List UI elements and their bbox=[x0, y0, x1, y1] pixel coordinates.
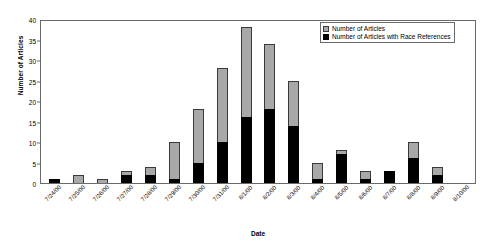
bar-column bbox=[425, 21, 449, 183]
y-tick-label: 35 bbox=[29, 37, 36, 44]
x-tick: 7/24/00 bbox=[42, 186, 66, 228]
y-tick-label: 5 bbox=[32, 160, 36, 167]
x-tick-label: 7/28/00 bbox=[140, 184, 158, 202]
legend-label: Number of Articles with Race References bbox=[332, 33, 451, 40]
bar-stack bbox=[97, 179, 108, 183]
x-tick-label: 7/25/00 bbox=[68, 184, 86, 202]
bar-stack bbox=[193, 109, 204, 183]
bar-stack bbox=[121, 171, 132, 183]
bar-column bbox=[43, 21, 67, 183]
x-tick-label: 8/7/00 bbox=[382, 185, 398, 201]
bar-segment-articles bbox=[97, 179, 108, 183]
bar-segment-race-references bbox=[336, 154, 347, 183]
bar-column bbox=[306, 21, 330, 183]
y-tick-label: 20 bbox=[29, 99, 36, 106]
bar-stack bbox=[288, 81, 299, 183]
bar-column bbox=[186, 21, 210, 183]
x-tick-label: 8/3/00 bbox=[286, 185, 302, 201]
y-axis-ticks: 0510152025303540 bbox=[0, 20, 40, 184]
bar-stack bbox=[145, 167, 156, 183]
x-tick: 8/8/00 bbox=[402, 186, 426, 228]
bar-stack bbox=[336, 150, 347, 183]
bar-segment-articles bbox=[217, 68, 228, 142]
bar-segment-race-references bbox=[169, 179, 180, 183]
y-tick-label: 40 bbox=[29, 17, 36, 24]
x-tick: 8/3/00 bbox=[282, 186, 306, 228]
articles-by-date-chart: Number of Articles 0510152025303540 7/24… bbox=[0, 0, 488, 246]
bar-segment-articles bbox=[145, 167, 156, 175]
bar-column bbox=[449, 21, 473, 183]
x-tick: 8/4/00 bbox=[306, 186, 330, 228]
bar-stack bbox=[217, 68, 228, 183]
x-tick: 8/10/00 bbox=[450, 186, 474, 228]
x-tick: 8/6/00 bbox=[354, 186, 378, 228]
y-tick-label: 25 bbox=[29, 78, 36, 85]
bar-column bbox=[282, 21, 306, 183]
bar-column bbox=[330, 21, 354, 183]
bar-segment-race-references bbox=[217, 142, 228, 183]
x-tick-label: 7/30/00 bbox=[188, 184, 206, 202]
bar-segment-articles bbox=[360, 171, 371, 179]
bar-segment-articles bbox=[432, 167, 443, 175]
bar-segment-articles bbox=[264, 44, 275, 110]
x-tick: 7/29/00 bbox=[162, 186, 186, 228]
bar-segment-articles bbox=[241, 27, 252, 117]
x-tick-label: 8/5/00 bbox=[334, 185, 350, 201]
bar-segment-race-references bbox=[145, 175, 156, 183]
legend-item: Number of Articles bbox=[323, 25, 451, 32]
bar-segment-race-references bbox=[408, 158, 419, 183]
x-tick: 8/9/00 bbox=[426, 186, 450, 228]
bar-column bbox=[162, 21, 186, 183]
x-tick-label: 7/26/00 bbox=[92, 184, 110, 202]
bar-segment-race-references bbox=[241, 117, 252, 183]
x-tick-label: 8/4/00 bbox=[310, 185, 326, 201]
plot-area bbox=[40, 20, 476, 184]
bar-stack bbox=[169, 142, 180, 183]
y-tick-label: 15 bbox=[29, 119, 36, 126]
legend-item: Number of Articles with Race References bbox=[323, 33, 451, 40]
x-tick-label: 8/10/00 bbox=[452, 184, 470, 202]
x-tick-label: 7/31/00 bbox=[212, 184, 230, 202]
x-tick-label: 7/27/00 bbox=[116, 184, 134, 202]
bar-segment-race-references bbox=[193, 163, 204, 184]
bar-segment-articles bbox=[193, 109, 204, 162]
x-tick: 7/30/00 bbox=[186, 186, 210, 228]
bar-segment-race-references bbox=[432, 175, 443, 183]
bar-column bbox=[91, 21, 115, 183]
bar-stack bbox=[312, 163, 323, 183]
x-tick-label: 8/1/00 bbox=[238, 185, 254, 201]
bar-column bbox=[354, 21, 378, 183]
bar-column bbox=[115, 21, 139, 183]
bar-column bbox=[234, 21, 258, 183]
x-tick-label: 8/6/00 bbox=[358, 185, 374, 201]
bar-column bbox=[258, 21, 282, 183]
x-tick-label: 8/8/00 bbox=[406, 185, 422, 201]
chart-legend: Number of ArticlesNumber of Articles wit… bbox=[320, 22, 455, 43]
bar-stack bbox=[241, 27, 252, 183]
bar-segment-articles bbox=[288, 81, 299, 126]
bar-stack bbox=[49, 179, 60, 183]
x-tick: 8/5/00 bbox=[330, 186, 354, 228]
bar-segment-race-references bbox=[121, 175, 132, 183]
bar-segment-articles bbox=[408, 142, 419, 158]
x-tick-label: 7/24/00 bbox=[44, 184, 62, 202]
bar-stack bbox=[408, 142, 419, 183]
bar-stack bbox=[360, 171, 371, 183]
bar-column bbox=[67, 21, 91, 183]
bar-stack bbox=[264, 44, 275, 183]
bar-column bbox=[377, 21, 401, 183]
bar-column bbox=[210, 21, 234, 183]
bar-segment-articles bbox=[73, 175, 84, 183]
x-tick: 8/7/00 bbox=[378, 186, 402, 228]
bar-column bbox=[401, 21, 425, 183]
x-tick: 7/26/00 bbox=[90, 186, 114, 228]
bar-stack bbox=[384, 171, 395, 183]
bar-segment-articles bbox=[169, 142, 180, 179]
y-tick-label: 10 bbox=[29, 140, 36, 147]
x-tick: 7/31/00 bbox=[210, 186, 234, 228]
x-tick-label: 8/9/00 bbox=[430, 185, 446, 201]
bar-segment-race-references bbox=[384, 171, 395, 183]
x-axis-title: Date bbox=[40, 230, 476, 237]
bar-segment-race-references bbox=[49, 179, 60, 183]
bars-layer bbox=[41, 21, 475, 183]
